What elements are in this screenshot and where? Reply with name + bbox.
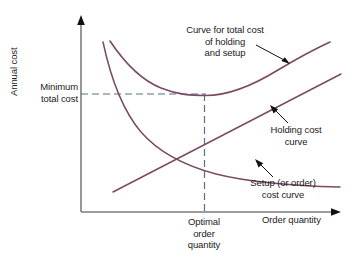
holding-cost-curve-annotation: Holding cost curve [246, 124, 346, 147]
setup-cost-curve [103, 42, 340, 187]
y-axis-arrowhead [77, 15, 85, 25]
total-cost-leader-arrowhead [281, 57, 290, 64]
eoq-chart-figure: Annual cost Minimum total cost Curve for… [0, 0, 359, 263]
setup-cost-curve-annotation: Setup (or order) cost curve [228, 177, 338, 200]
total-cost-curve-annotation: Curve for total cost of holding and setu… [170, 24, 280, 59]
optimal-order-quantity-label: Optimal order quantity [166, 216, 242, 251]
minimum-total-cost-label: Minimum total cost [0, 81, 78, 104]
x-axis-title: Order quantity [262, 214, 356, 226]
